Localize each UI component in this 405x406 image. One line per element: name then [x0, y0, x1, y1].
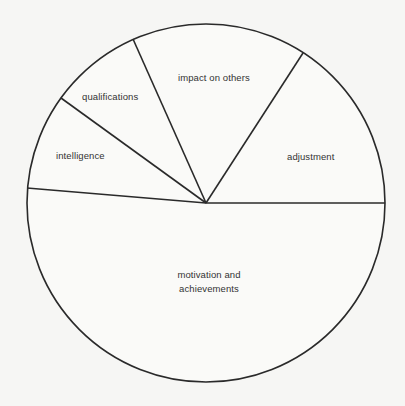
slice-label-impact-on-others: impact on others — [178, 72, 250, 83]
slice-label-motivation-line1: motivation and — [177, 269, 240, 280]
slice-label-adjustment: adjustment — [287, 151, 335, 162]
slice-label-qualifications: qualifications — [82, 91, 138, 102]
slice-label-intelligence: intelligence — [56, 150, 105, 161]
slice-label-motivation-line2: achievements — [179, 283, 239, 294]
pie-chart: adjustment impact on others qualificatio… — [0, 0, 405, 406]
